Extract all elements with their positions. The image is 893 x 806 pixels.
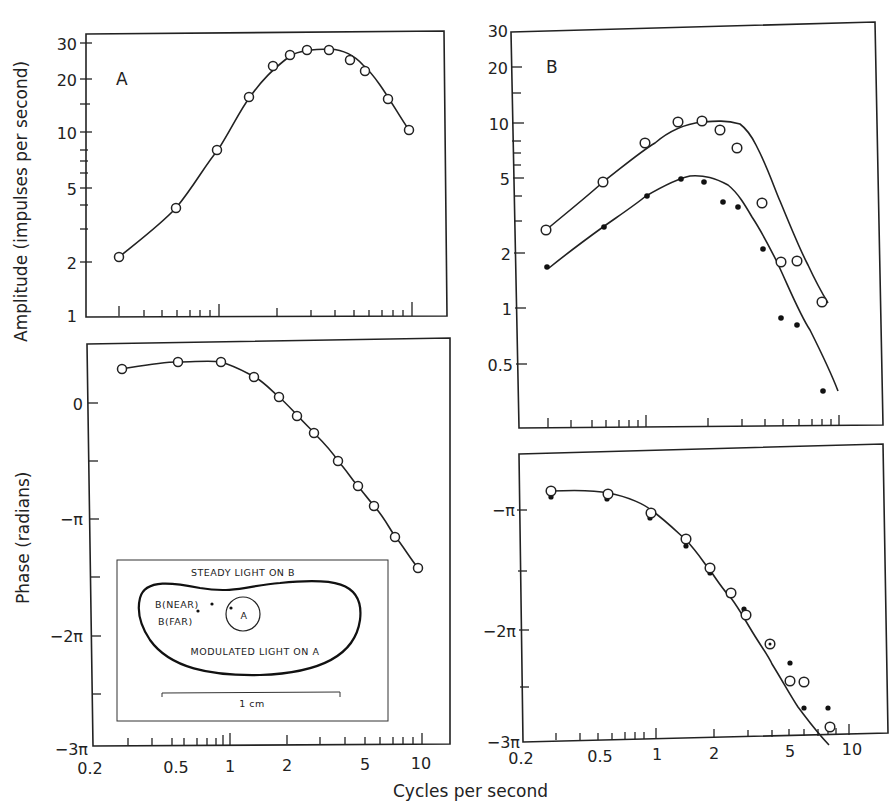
figure: 30 20 10 5 2 1 A (0, 0, 893, 806)
svg-text:10: 10 (411, 754, 431, 773)
svg-text:10: 10 (57, 124, 77, 143)
svg-text:0.5: 0.5 (587, 747, 612, 766)
svg-text:1: 1 (67, 307, 77, 326)
svg-text:10: 10 (842, 740, 862, 759)
svg-text:1: 1 (502, 300, 512, 319)
inset-near-label: B(NEAR) (155, 599, 199, 610)
svg-text:30: 30 (57, 35, 77, 54)
svg-text:1: 1 (225, 757, 235, 776)
panel-a-label: A (116, 69, 128, 89)
svg-text:2: 2 (67, 254, 77, 273)
panel-b-phase: −π −2π −3π 0.20.5 12 510 (483, 444, 888, 768)
svg-text:−2π: −2π (50, 627, 84, 646)
svg-text:1: 1 (652, 745, 662, 764)
inset-scale-label: 1 cm (239, 698, 265, 709)
inset-bottom-label: MODULATED LIGHT ON A (191, 646, 320, 657)
svg-text:20: 20 (57, 71, 77, 90)
panel-b-label: B (546, 57, 558, 77)
panel-b-amplitude: 30 20 10 5 2 1 0.5 B (488, 22, 883, 428)
svg-text:0.5: 0.5 (163, 758, 188, 777)
inset-diagram: STEADY LIGHT ON B B(NEAR) B(FAR) A MODUL… (117, 560, 388, 721)
svg-text:10: 10 (489, 115, 509, 134)
svg-text:−3π: −3π (55, 740, 89, 759)
svg-text:0.5: 0.5 (488, 356, 513, 375)
svg-text:−π: −π (60, 510, 83, 529)
amplitude-axis-label: Amplitude (impulses per second) (11, 61, 31, 342)
svg-text:2: 2 (709, 744, 719, 763)
svg-text:5: 5 (360, 755, 370, 774)
svg-text:0.2: 0.2 (508, 749, 533, 768)
svg-text:2: 2 (282, 756, 292, 775)
svg-text:0.2: 0.2 (77, 759, 102, 778)
svg-text:5: 5 (500, 170, 510, 189)
svg-text:20: 20 (488, 59, 508, 78)
inset-title: STEADY LIGHT ON B (191, 567, 295, 578)
svg-text:2: 2 (501, 245, 511, 264)
svg-text:5: 5 (67, 180, 77, 199)
inset-spot-label: A (241, 610, 248, 621)
x-axis-label: Cycles per second (393, 781, 548, 801)
svg-text:0: 0 (73, 395, 83, 414)
panel-a-amplitude: 30 20 10 5 2 1 A (57, 31, 447, 326)
svg-text:−π: −π (492, 501, 515, 520)
phase-axis-label: Phase (radians) (13, 472, 33, 604)
inset-far-label: B(FAR) (158, 616, 193, 627)
svg-text:5: 5 (785, 742, 795, 761)
svg-text:−2π: −2π (483, 622, 517, 641)
svg-text:30: 30 (488, 22, 508, 41)
